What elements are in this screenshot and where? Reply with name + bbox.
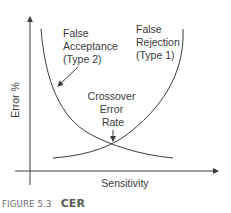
false-acceptance-pointer: [58, 67, 78, 86]
figure-caption: FIGURE 5.3 CER: [2, 192, 85, 211]
figure-title: CER: [61, 197, 85, 210]
x-axis-label: Sensitivity: [101, 177, 149, 189]
crossover-error-rate-label: Crossover Error Rate: [88, 90, 139, 128]
cer-diagram: False Acceptance (Type 2) False Rejectio…: [0, 0, 231, 190]
y-axis-label: Error %: [9, 82, 21, 118]
false-rejection-label: False Rejection (Type 1): [136, 23, 183, 61]
figure-number: FIGURE 5.3: [2, 199, 52, 209]
false-acceptance-label: False Acceptance (Type 2): [63, 27, 121, 65]
